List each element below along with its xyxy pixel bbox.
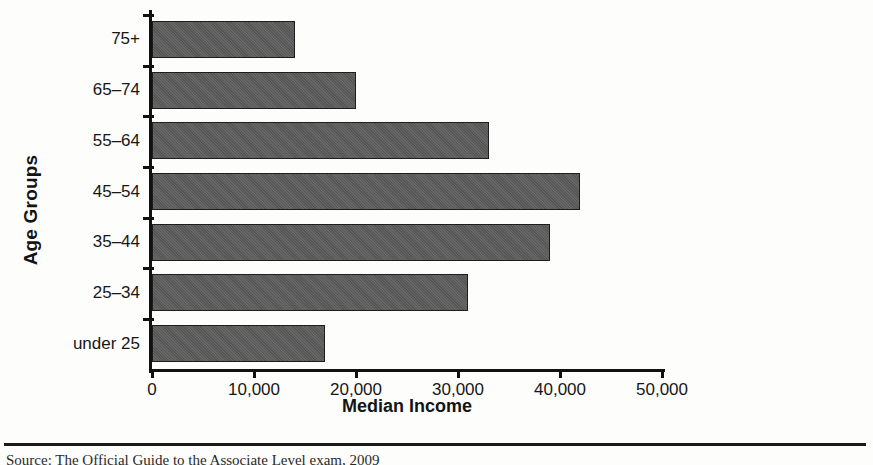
x-axis-tick [151,369,154,378]
y-axis-title: Age Groups [14,110,48,310]
y-axis-tick-label: 65–74 [93,80,140,100]
y-axis-tick-label: 35–44 [93,232,140,252]
y-axis-tick [143,115,154,118]
figure-caption: Source: The Official Guide to the Associ… [6,452,866,465]
bar [152,224,550,261]
y-axis-tick-label: 45–54 [93,182,140,202]
y-axis-tick-label: under 25 [73,334,140,354]
x-axis-tick [559,369,562,378]
y-axis-tick-label: 75+ [111,29,140,49]
y-axis-tick-labels: under 2525–3435–4445–5455–6465–7475+ [48,14,146,369]
x-axis-line [149,369,665,372]
bar-chart-figure: Age Groups under 2525–3435–4445–5455–646… [0,0,873,465]
bar [152,274,468,311]
x-axis-tick [661,369,664,378]
bar [152,325,325,362]
y-axis-tick [143,14,154,17]
y-axis-tick [143,65,154,68]
y-axis-tick-label: 25–34 [93,283,140,303]
y-axis-tick [143,318,154,321]
y-axis-title-text: Age Groups [20,155,42,266]
bar [152,21,295,58]
x-axis-tick [253,369,256,378]
y-axis-tick [143,217,154,220]
y-axis-tick-label: 55–64 [93,131,140,151]
y-axis-tick [143,267,154,270]
y-axis-tick [143,166,154,169]
x-axis-tick [457,369,460,378]
horizontal-rule [4,443,866,446]
bar [152,122,489,159]
x-axis-tick [355,369,358,378]
bar [152,72,356,109]
bar [152,173,580,210]
plot-area: 010,00020,00030,00040,00050,000 [152,14,662,369]
x-axis-title: Median Income [152,396,662,417]
